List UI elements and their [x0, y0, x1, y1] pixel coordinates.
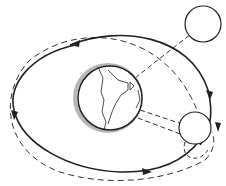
earth-icon — [78, 66, 142, 130]
moon-near-icon — [179, 112, 211, 144]
orbit-diagram: Earth-Moon orbit with spacecraft traject… — [0, 0, 226, 186]
moon-far-icon — [185, 6, 221, 42]
